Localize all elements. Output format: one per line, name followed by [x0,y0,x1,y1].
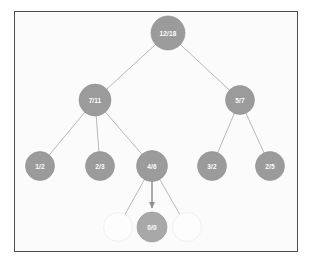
node-circle [256,152,285,181]
tree-edge [49,112,85,155]
node-circle [137,151,168,182]
tree-node-unexplored[interactable] [173,213,202,242]
tree-edge [246,113,264,154]
tree-node[interactable]: 2/3 [86,152,115,181]
tree-node[interactable]: 7/11 [79,84,111,116]
diagram-canvas: 12/187/115/71/22/34/63/22/50/0 [0,0,312,268]
tree-edge [106,44,155,89]
tree-node[interactable]: 12/18 [151,16,185,50]
node-circle [79,84,111,116]
node-circle [86,152,115,181]
tree-node[interactable]: 4/6 [137,151,168,182]
tree-node[interactable]: 0/0 [137,212,167,242]
edge-layer [49,44,264,215]
tree-node-unexplored[interactable] [104,213,133,242]
node-circle [226,86,255,115]
tree-node[interactable]: 3/2 [198,152,227,181]
node-circle [198,152,227,181]
node-circle [137,212,167,242]
tree-edge [159,179,180,215]
tree-node[interactable]: 2/5 [256,152,285,181]
node-circle [151,16,185,50]
node-circle [173,213,202,242]
tree-edge [217,113,234,153]
tree-node[interactable]: 1/2 [26,152,55,181]
tree-edge [105,112,142,155]
node-circle [26,152,55,181]
node-circle [104,213,133,242]
node-layer: 12/187/115/71/22/34/63/22/50/0 [26,16,285,242]
tree-node[interactable]: 5/7 [226,86,255,115]
tree-edge [180,44,230,90]
tree-edge [125,179,145,215]
tree-edge [96,115,99,152]
tree-graph: 12/187/115/71/22/34/63/22/50/0 [0,0,312,268]
